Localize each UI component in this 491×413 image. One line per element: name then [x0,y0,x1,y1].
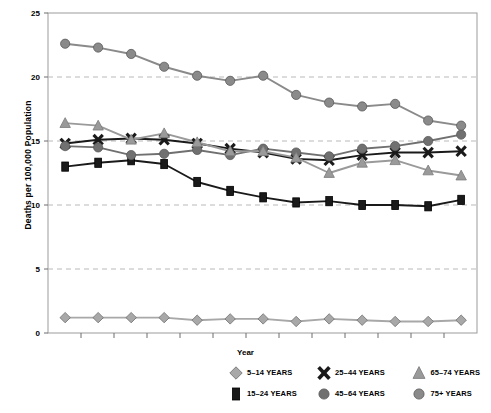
data-point [126,312,136,322]
y-tick-label: 25 [31,9,40,18]
data-point [358,144,367,153]
square-marker-icon [227,386,245,402]
data-point [457,121,466,130]
data-point [226,76,235,85]
legend-row: 15–24 YEARS45–64 YEARS75+ YEARS [225,383,491,404]
data-point [325,98,334,107]
legend-label: 75+ YEARS [430,389,471,398]
series-markers [60,118,466,180]
data-point [160,149,169,158]
x-icon [313,364,335,382]
diamond-marker-icon [227,365,245,381]
data-point [259,71,268,80]
series-markers [60,312,466,326]
data-point [62,162,69,171]
data-point [458,195,465,204]
x-tick-label: 1998 [254,343,272,345]
data-point [193,71,202,80]
x-tick-label: 1995 [155,343,173,345]
x-tick-label: 1997 [221,343,239,345]
data-point [225,314,235,324]
y-tick-label: 0 [36,329,41,338]
legend-item-65-74-years[interactable]: 65–74 YEARS [408,364,491,382]
x-tick-label: 2001 [353,343,371,345]
data-point [159,128,169,138]
data-point [357,315,367,325]
legend-item-75-years[interactable]: 75+ YEARS [408,385,491,403]
triangle-icon [408,364,430,382]
series-line [65,44,461,126]
data-point [326,197,333,206]
data-point [94,143,103,152]
data-point [260,193,267,202]
chart-canvas: 0510152025199219931994199519961997199819… [0,0,491,345]
circle-icon [313,385,335,403]
square-icon [225,385,247,403]
data-point [292,90,301,99]
data-point [60,312,70,322]
plot-border [48,13,477,333]
circle-marker-icon [315,386,333,402]
data-point [425,202,432,211]
data-point [391,142,400,151]
data-point [424,136,433,145]
x-axis-title: Year [0,348,491,357]
data-point [293,198,300,207]
data-point [324,314,334,324]
y-axis-title: Deaths per 100,000 Population [23,85,33,245]
data-point [391,99,400,108]
x-tick-label: 1999 [287,343,305,345]
line-chart: 0510152025199219931994199519961997199819… [0,0,491,413]
y-tick-label: 5 [36,265,41,274]
diamond-icon [225,364,247,382]
legend-row: 5–14 YEARS25–44 YEARS65–74 YEARS [225,362,491,383]
data-point [227,186,234,195]
triangle-marker-icon [410,365,428,381]
x-tick-label: 1994 [122,343,140,345]
chart-legend: 5–14 YEARS25–44 YEARS65–74 YEARS15–24 YE… [225,362,491,410]
x-tick-label: 2002 [386,343,404,345]
x-tick-label: 2000 [320,343,338,345]
legend-item-45-64-years[interactable]: 45–64 YEARS [313,385,408,403]
legend-label: 5–14 YEARS [247,368,292,377]
x-tick-label: 1993 [89,343,107,345]
data-point [358,102,367,111]
data-point [456,315,466,325]
data-point [160,62,169,71]
legend-label: 25–44 YEARS [335,368,385,377]
legend-label: 45–64 YEARS [335,389,385,398]
y-tick-label: 20 [31,73,40,82]
x-tick-label: 1992 [56,343,74,345]
data-point [194,177,201,186]
legend-item-15-24-years[interactable]: 15–24 YEARS [225,385,313,403]
legend-item-5-14-years[interactable]: 5–14 YEARS [225,364,313,382]
data-point [127,49,136,58]
data-point [93,312,103,322]
legend-label: 65–74 YEARS [430,368,480,377]
legend-item-25-44-years[interactable]: 25–44 YEARS [313,364,408,382]
data-point [61,39,70,48]
data-point [94,43,103,52]
circle-icon [408,385,430,403]
data-point [61,142,70,151]
x-tick-label: 1996 [188,343,206,345]
data-point [95,158,102,167]
data-point [161,159,168,168]
data-point [291,316,301,326]
data-point [159,312,169,322]
plot-area: 0510152025199219931994199519961997199819… [0,0,491,345]
legend-label: 15–24 YEARS [247,389,297,398]
data-point [390,316,400,326]
x-tick-label: 2003 [419,343,437,345]
data-point [258,314,268,324]
x-marker-icon [315,365,333,381]
circle-marker-icon [410,386,428,402]
data-point [457,130,466,139]
data-point [359,200,366,209]
data-point [192,315,202,325]
data-point [127,150,136,159]
data-point [423,316,433,326]
data-point [325,152,334,161]
data-point [424,116,433,125]
x-tick-label: 2004 [452,343,470,345]
